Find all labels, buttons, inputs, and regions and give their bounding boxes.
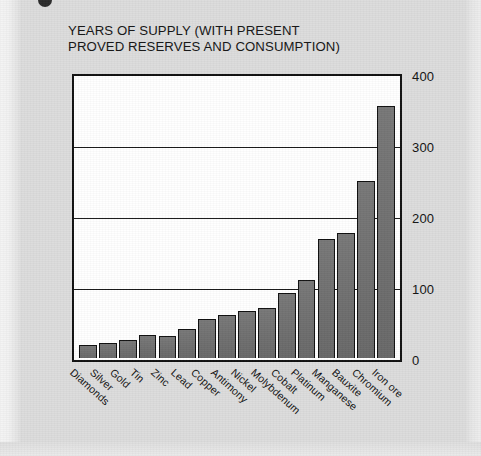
bar-series xyxy=(76,78,398,358)
chart-page: YEARS OF SUPPLY (WITH PRESENT PROVED RES… xyxy=(0,0,481,456)
bar-antimony xyxy=(218,315,236,358)
bar-lead xyxy=(178,329,196,358)
bar-molybdenum xyxy=(258,308,276,358)
bar-bauxite xyxy=(337,233,355,358)
page-registration-mark xyxy=(38,0,52,7)
plot-wrapper xyxy=(72,74,402,362)
x-label-lead: Lead xyxy=(169,366,195,391)
bar-chromium xyxy=(357,181,375,359)
x-label-zinc: Zinc xyxy=(149,366,172,389)
y-tick-200: 200 xyxy=(412,211,434,226)
bar-silver xyxy=(99,343,117,358)
x-axis-labels: DiamondsSilverGoldTinZincLeadCopperAntim… xyxy=(72,364,402,450)
bar-copper xyxy=(198,319,216,358)
y-axis: 0100200300400 xyxy=(406,60,468,380)
bar-zinc xyxy=(159,336,177,358)
bar-gold xyxy=(119,340,137,358)
chart-title: YEARS OF SUPPLY (WITH PRESENT PROVED RES… xyxy=(68,23,398,55)
bar-diamonds xyxy=(79,345,97,358)
bar-nickel xyxy=(238,311,256,358)
bar-tin xyxy=(139,335,157,358)
bar-iron-ore xyxy=(377,106,395,358)
y-tick-100: 100 xyxy=(412,282,434,297)
y-tick-400: 400 xyxy=(412,69,434,84)
bar-manganese xyxy=(318,239,336,358)
bar-cobalt xyxy=(278,293,296,358)
y-tick-0: 0 xyxy=(412,353,419,368)
page-left-margin xyxy=(0,0,22,456)
y-tick-300: 300 xyxy=(412,140,434,155)
bar-platinum xyxy=(298,280,316,358)
plot-area xyxy=(72,74,402,362)
